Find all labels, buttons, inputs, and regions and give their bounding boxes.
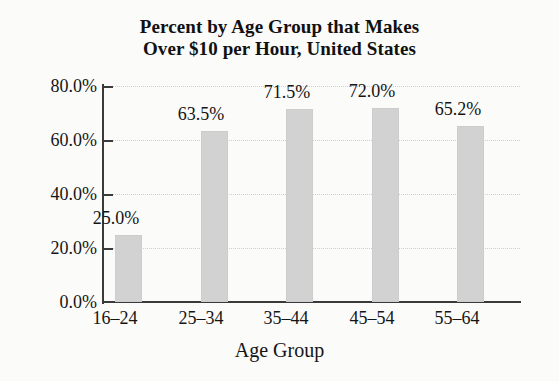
bar-chart: Percent by Age Group that Makes Over $10… [0, 0, 559, 381]
y-tick-label-80: 80.0% [5, 77, 97, 95]
bar-45-54 [372, 108, 399, 302]
bar-value-label-55-64: 65.2% [418, 100, 498, 118]
bar-55-64 [457, 126, 484, 302]
bar-25-34 [201, 131, 228, 302]
bar-value-label-25-34: 63.5% [161, 105, 241, 123]
x-tick-label-16-24: 16–24 [72, 308, 158, 328]
x-tick-label-35-44: 35–44 [243, 308, 329, 328]
y-tick-mark-80 [103, 86, 113, 88]
bar-16-24 [115, 235, 142, 303]
y-tick-mark-20 [103, 248, 113, 250]
y-tick-label-40: 40.0% [5, 185, 97, 203]
bar-value-label-35-44: 71.5% [247, 83, 327, 101]
x-tick-label-25-34: 25–34 [158, 308, 244, 328]
bar-35-44 [286, 109, 313, 302]
y-tick-label-60: 60.0% [5, 131, 97, 149]
x-tick-label-55-64: 55–64 [414, 308, 500, 328]
y-tick-mark-60 [103, 140, 113, 142]
x-axis-title: Age Group [0, 339, 559, 361]
x-tick-label-45-54: 45–54 [329, 308, 415, 328]
bar-value-label-16-24: 25.0% [76, 209, 156, 227]
y-tick-label-20: 20.0% [5, 239, 97, 257]
y-tick-mark-40 [103, 194, 113, 196]
bar-value-label-45-54: 72.0% [332, 82, 412, 100]
